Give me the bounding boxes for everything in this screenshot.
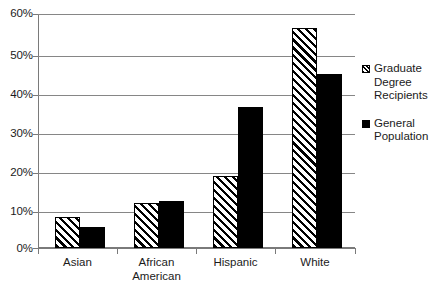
y-axis: 60% 50% 40% 30% 20% 10% 0% <box>0 0 33 287</box>
bar-african-american-graduate-degree-recipients <box>134 203 159 248</box>
x-axis-label-african-american: African American <box>117 256 196 283</box>
legend-swatch-hatched-square-icon <box>362 65 370 73</box>
bar-asian-general-population <box>80 227 105 248</box>
y-tick-label-0: 0% <box>1 243 33 255</box>
bar-group-african-american <box>117 14 196 248</box>
x-axis-line <box>38 248 356 249</box>
bar-group-white <box>275 14 354 248</box>
x-tick-mark-4 <box>355 249 356 254</box>
y-tick-label-60: 60% <box>1 8 33 20</box>
x-tick-mark-1 <box>117 249 118 254</box>
x-tick-mark-3 <box>275 249 276 254</box>
bar-group-asian <box>38 14 117 248</box>
bar-white-graduate-degree-recipients <box>292 28 317 248</box>
bar-hispanic-graduate-degree-recipients <box>213 176 238 248</box>
bar-hispanic-general-population <box>238 107 263 248</box>
bar-group-hispanic <box>196 14 275 248</box>
x-tick-mark-2 <box>196 249 197 254</box>
x-axis-label-asian: Asian <box>38 256 117 270</box>
x-axis-label-white: White <box>275 256 355 270</box>
bar-chart: 60% 50% 40% 30% 20% 10% 0% <box>0 0 444 287</box>
legend-label-graduate-degree-recipients: Graduate Degree Recipients <box>374 62 444 103</box>
legend-entry-graduate-degree-recipients: Graduate Degree Recipients <box>362 62 444 103</box>
x-tick-mark-0 <box>38 249 39 254</box>
legend: Graduate Degree Recipients General Popul… <box>362 62 444 144</box>
y-tick-label-10: 10% <box>1 206 33 218</box>
y-tick-label-30: 30% <box>1 128 33 140</box>
legend-entry-general-population: General Population <box>362 117 444 144</box>
y-tick-label-40: 40% <box>1 89 33 101</box>
y-tick-label-50: 50% <box>1 50 33 62</box>
bar-asian-graduate-degree-recipients <box>55 217 80 248</box>
legend-swatch-solid-square-icon <box>362 120 370 128</box>
bar-white-general-population <box>317 74 342 248</box>
y-tick-label-20: 20% <box>1 167 33 179</box>
plot-area <box>38 14 355 248</box>
x-axis-label-hispanic: Hispanic <box>196 256 275 270</box>
legend-label-general-population: General Population <box>374 117 444 144</box>
bar-african-american-general-population <box>159 201 184 248</box>
